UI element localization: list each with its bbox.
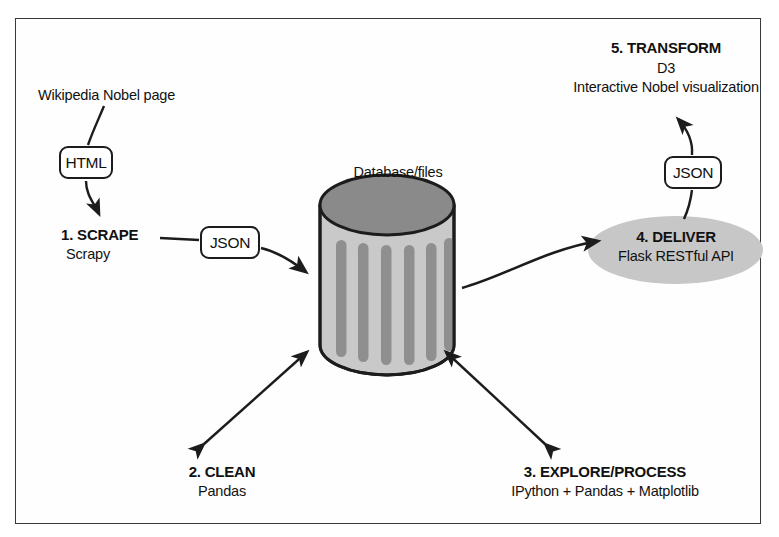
step-clean-heading: 2. CLEAN <box>189 463 256 481</box>
json-scrape-data-box: JSON <box>200 226 260 259</box>
step-transform-subtitle: D3 <box>657 60 675 77</box>
diagram-canvas: Wikipedia Nobel page 1. SCRAPE Scrapy Da… <box>0 0 779 537</box>
source-label: Wikipedia Nobel page <box>38 87 175 104</box>
step-scrape-heading: 1. SCRAPE <box>61 226 138 244</box>
step-transform-heading: 5. TRANSFORM <box>611 39 721 57</box>
database-label: Database/files <box>353 164 442 181</box>
json-deliver-data-box-label: JSON <box>666 158 720 187</box>
html-data-box-label: HTML <box>61 148 111 177</box>
step-explore-subtitle: IPython + Pandas + Matplotlib <box>511 483 699 500</box>
json-deliver-data-box: JSON <box>664 156 722 189</box>
json-scrape-data-box-label: JSON <box>202 228 258 257</box>
step-clean-subtitle: Pandas <box>198 483 246 500</box>
step-deliver-heading: 4. DELIVER <box>636 228 716 246</box>
step-explore-heading: 3. EXPLORE/PROCESS <box>524 463 686 481</box>
step-deliver-subtitle: Flask RESTful API <box>618 248 734 265</box>
html-data-box: HTML <box>59 146 113 179</box>
step-transform-subtitle-secondary: Interactive Nobel visualization <box>573 79 759 96</box>
step-scrape-subtitle: Scrapy <box>66 246 110 263</box>
